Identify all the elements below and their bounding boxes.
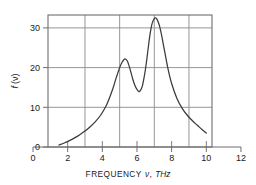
x-axis-tick-label: 2 — [65, 153, 70, 163]
x-axis-title-unit: THz — [155, 169, 171, 179]
x-axis-title: FREQUENCY ν , THz — [86, 169, 172, 179]
y-axis-tick-label: 0 — [35, 142, 40, 152]
x-axis-tick-label: 8 — [169, 153, 174, 163]
y-axis-tick-label: 20 — [30, 63, 40, 73]
x-axis-tick-label: 12 — [236, 153, 246, 163]
y-axis-title: f (ν) — [10, 73, 20, 88]
chart-figure: 024681012 0102030 FREQUENCY ν , THz f (ν… — [0, 0, 256, 185]
y-axis-tick-label: 10 — [30, 103, 40, 113]
x-axis-tick-label: 10 — [201, 153, 211, 163]
x-axis-title-main: FREQUENCY — [86, 169, 142, 179]
x-axis-title-comma: , — [149, 169, 152, 179]
y-axis-tick-label: 30 — [30, 23, 40, 33]
x-axis-tick-label: 6 — [134, 153, 139, 163]
x-axis-tick-label: 0 — [30, 153, 35, 163]
y-axis-title-argument: (ν) — [10, 73, 20, 84]
density-of-states-chart: 024681012 0102030 FREQUENCY ν , THz f (ν… — [0, 0, 256, 185]
x-axis-tick-label: 4 — [100, 153, 105, 163]
